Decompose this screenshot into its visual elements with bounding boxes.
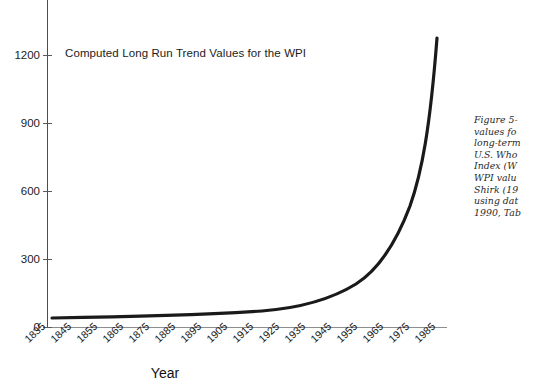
caption-line-1: Figure 5- [474,114,541,126]
x-tick-label-1935: 1935 [282,320,307,345]
x-tick-label-1975: 1975 [386,320,411,345]
caption-line-4: U.S. Who [474,149,541,161]
x-tick-label-1835: 1835 [22,320,47,345]
x-tick-label-1855: 1855 [74,320,99,345]
caption-line-7: Shirk (19 [474,184,541,196]
x-axis-title: Year [0,365,330,381]
x-tick-label-1895: 1895 [178,320,203,345]
caption-line-2: values fo [474,126,541,138]
caption-line-6: WPI valu [474,172,541,184]
x-tick-label-1915: 1915 [230,320,255,345]
x-tick-label-1925: 1925 [256,320,281,345]
chart-plot-area: Computed Long Run Trend Values for the W… [0,0,470,388]
x-tick-label-1955: 1955 [334,320,359,345]
figure-panel: Computed Long Run Trend Values for the W… [0,0,541,388]
x-tick-label-1945: 1945 [308,320,333,345]
x-tick-label-1965: 1965 [360,320,385,345]
caption-line-9: 1990, Tab [474,207,541,219]
x-tick-label-1865: 1865 [100,320,125,345]
x-tick-label-1845: 1845 [48,320,73,345]
x-tick-label-1905: 1905 [204,320,229,345]
caption-line-3: long-term [474,137,541,149]
x-tick-labels: 1835 1845 1855 1865 1875 1885 1895 1905 … [0,0,470,388]
figure-caption: Figure 5- values fo long-term U.S. Who I… [474,114,541,218]
x-tick-label-1985: 1985 [412,320,437,345]
x-tick-label-1875: 1875 [126,320,151,345]
caption-line-8: using dat [474,195,541,207]
x-tick-label-1885: 1885 [152,320,177,345]
caption-line-5: Index (W [474,160,541,172]
